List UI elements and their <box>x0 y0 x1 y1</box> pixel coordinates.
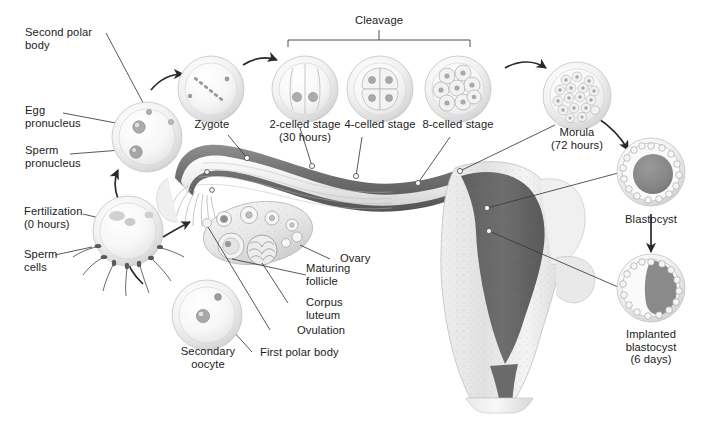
vaginal-canal <box>466 398 533 413</box>
label-ovulation: Ovulation <box>297 324 345 337</box>
cell-8-celled <box>425 56 491 122</box>
label-ovary: Ovary <box>340 252 370 265</box>
cell-implanted-blastocyst <box>617 254 685 322</box>
label-implanted-blastocyst: Implanted blastocyst (6 days) <box>608 328 694 366</box>
label-morula: Morula (72 hours) <box>538 126 616 151</box>
cell-2-celled <box>272 56 338 122</box>
label-cleavage: Cleavage <box>345 14 413 27</box>
cell-4-celled <box>347 56 413 122</box>
inner-cell-mass <box>633 154 673 194</box>
figure-canvas: Second polar body Egg pronucleus Sperm p… <box>0 0 702 421</box>
label-maturing-follicle: Maturing follicle <box>306 262 350 287</box>
ovulation-site <box>203 219 212 228</box>
ovary-structure <box>199 195 317 272</box>
label-corpus-luteum: Corpus luteum <box>306 296 343 321</box>
label-blastocyst: Blastocyst <box>612 213 690 226</box>
corpus-luteum <box>247 235 277 265</box>
cell-blastocyst <box>617 138 685 206</box>
label-8-celled-stage: 8-celled stage <box>412 118 504 131</box>
label-fertilization: Fertilization (0 hours) <box>24 205 83 230</box>
label-egg-pronucleus: Egg pronucleus <box>25 104 81 129</box>
label-sperm-pronucleus: Sperm pronucleus <box>25 144 81 169</box>
cell-pronuclei <box>112 102 182 172</box>
label-zygote: Zygote <box>182 118 242 131</box>
label-secondary-oocyte: Secondary oocyte <box>165 345 251 370</box>
label-sperm-cells: Sperm cells <box>24 248 57 273</box>
cell-zygote <box>178 56 244 122</box>
cleavage-bracket <box>288 30 470 47</box>
label-first-polar-body: First polar body <box>260 346 339 359</box>
maturing-follicle <box>218 233 244 259</box>
anatomy-illustration <box>0 0 702 421</box>
uterus <box>441 162 595 413</box>
cell-morula <box>543 62 611 130</box>
cell-secondary-oocyte <box>172 280 242 350</box>
label-second-polar-body: Second polar body <box>25 26 92 51</box>
